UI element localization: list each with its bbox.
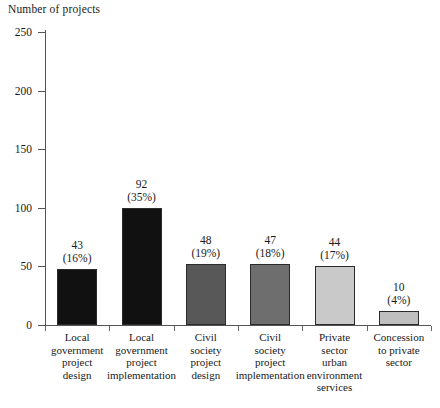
bar-value-label: 44(17%) [320, 236, 349, 262]
bar-chart: Number of projects 050100150200250 43(16… [0, 0, 440, 408]
bar-value-number: 44 [320, 236, 349, 249]
bar[interactable] [57, 269, 97, 325]
category-label-line: services [293, 381, 375, 394]
y-axis-tick-label: 250 [0, 26, 32, 38]
bar-group: 48(19%) [186, 32, 226, 325]
bar[interactable] [186, 264, 226, 325]
bar[interactable] [250, 264, 290, 325]
bar-value-label: 92(35%) [127, 178, 156, 204]
bar-value-number: 48 [191, 234, 220, 247]
bar-value-percent: (17%) [320, 249, 349, 262]
bar-group: 44(17%) [315, 32, 355, 325]
bar-group: 10(4%) [379, 32, 419, 325]
bar-value-percent: (4%) [387, 294, 410, 307]
bar-value-label: 47(18%) [256, 234, 285, 260]
bar-value-percent: (19%) [191, 247, 220, 260]
category-label-line: to private [358, 344, 440, 357]
bar-value-percent: (18%) [256, 247, 285, 260]
bar-value-number: 92 [127, 178, 156, 191]
y-axis-tick-label: 150 [0, 143, 32, 155]
y-axis-title: Number of projects [8, 3, 100, 15]
plot-area: 43(16%)92(35%)48(19%)47(18%)44(17%)10(4%… [45, 32, 431, 325]
bar-value-number: 10 [387, 281, 410, 294]
bar-group: 47(18%) [250, 32, 290, 325]
y-axis-tick-label: 50 [0, 260, 32, 272]
bar-value-label: 10(4%) [387, 281, 410, 307]
category-label-line: sector [358, 356, 440, 369]
x-axis-category-label: Concessionto privatesector [358, 331, 440, 369]
bar-value-percent: (35%) [127, 191, 156, 204]
category-label-line: environment [293, 369, 375, 382]
bar[interactable] [379, 311, 419, 325]
bar-value-label: 43(16%) [63, 239, 92, 265]
category-label-line: Concession [358, 331, 440, 344]
bar-group: 43(16%) [57, 32, 97, 325]
bar-value-label: 48(19%) [191, 234, 220, 260]
y-axis-tick-label: 100 [0, 202, 32, 214]
bar-value-number: 47 [256, 234, 285, 247]
y-axis-tick-label: 0 [0, 319, 32, 331]
bar-group: 92(35%) [122, 32, 162, 325]
bar[interactable] [122, 208, 162, 325]
bar-value-number: 43 [63, 239, 92, 252]
bar-value-percent: (16%) [63, 252, 92, 265]
bar[interactable] [315, 266, 355, 325]
y-axis-tick-label: 200 [0, 85, 32, 97]
